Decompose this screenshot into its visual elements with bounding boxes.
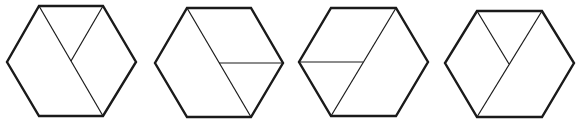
hexagon-2 xyxy=(155,8,283,117)
hexagon-spoke xyxy=(71,6,103,61)
hexagon-4 xyxy=(445,11,574,117)
hexagon-spoke xyxy=(477,11,509,64)
hexagon-3 xyxy=(299,8,428,116)
hexagon-figure xyxy=(0,0,578,126)
hexagon-1 xyxy=(7,6,136,116)
